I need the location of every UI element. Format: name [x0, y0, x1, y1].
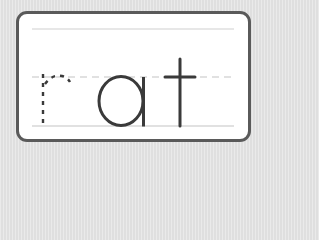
letter-t	[165, 59, 195, 126]
letter-r-trace	[43, 74, 70, 127]
handwriting-worksheet	[0, 0, 270, 158]
letter-a	[99, 77, 144, 127]
